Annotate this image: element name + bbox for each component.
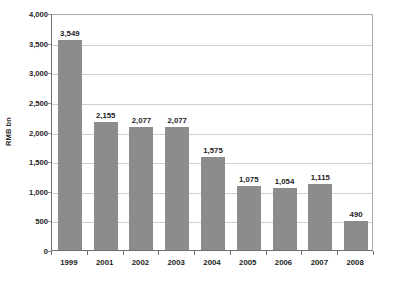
y-axis-tick-mark xyxy=(46,14,51,15)
x-axis-tick-mark xyxy=(158,251,159,255)
y-axis-tick-label: 1,500 xyxy=(14,158,48,167)
bar-value-label: 2,077 xyxy=(132,116,152,125)
bar-value-label: 1,075 xyxy=(239,175,259,184)
bar-group: 1,575 xyxy=(195,15,231,250)
x-axis-tick-label: 2005 xyxy=(228,258,268,267)
x-axis-tick-label: 2008 xyxy=(335,258,375,267)
bar[interactable] xyxy=(201,157,225,250)
bar-group: 1,115 xyxy=(302,15,338,250)
plot-area: 3,5492,1552,0772,0771,5751,0751,0541,115… xyxy=(51,14,373,251)
x-axis-tick-label: 2006 xyxy=(264,258,304,267)
bar-value-label: 1,575 xyxy=(203,146,223,155)
x-axis-tick-mark xyxy=(230,251,231,255)
y-axis-tick-labels: 05001,0001,5002,0002,5003,0003,5004,000 xyxy=(14,0,48,288)
bar-value-label: 1,054 xyxy=(275,177,295,186)
bar-chart-figure: RMB bn 05001,0001,5002,0002,5003,0003,50… xyxy=(0,0,415,288)
y-axis-tick-mark xyxy=(46,133,51,134)
y-axis-tick-mark xyxy=(46,192,51,193)
y-axis-tick-label: 3,500 xyxy=(14,39,48,48)
bar-value-label: 2,155 xyxy=(96,111,116,120)
x-axis-tick-mark xyxy=(301,251,302,255)
x-axis-tick-mark xyxy=(266,251,267,255)
x-axis-tick-mark xyxy=(194,251,195,255)
x-axis-tick-mark xyxy=(123,251,124,255)
x-axis-tick-label: 2002 xyxy=(120,258,160,267)
y-axis-tick-label: 0 xyxy=(14,247,48,256)
bar-group: 1,075 xyxy=(231,15,267,250)
bar[interactable] xyxy=(344,221,368,250)
x-axis-tick-label: 2001 xyxy=(85,258,125,267)
y-axis-tick-label: 3,000 xyxy=(14,69,48,78)
bar[interactable] xyxy=(129,127,153,250)
bar-group: 1,054 xyxy=(267,15,303,250)
x-axis-tick-mark xyxy=(337,251,338,255)
y-axis-tick-label: 1,000 xyxy=(14,187,48,196)
bar-value-label: 3,549 xyxy=(60,29,80,38)
bar-group: 490 xyxy=(338,15,374,250)
bar[interactable] xyxy=(94,122,118,250)
bar-group: 2,155 xyxy=(88,15,124,250)
bar[interactable] xyxy=(58,40,82,250)
x-axis-tick-label: 1999 xyxy=(49,258,89,267)
x-axis-tick-mark xyxy=(51,251,52,255)
y-axis-tick-label: 4,000 xyxy=(14,10,48,19)
x-axis-tick-label: 2007 xyxy=(299,258,339,267)
bars-layer: 3,5492,1552,0772,0771,5751,0751,0541,115… xyxy=(52,15,372,250)
y-axis-tick-mark xyxy=(46,221,51,222)
y-axis-tick-label: 500 xyxy=(14,217,48,226)
bar[interactable] xyxy=(273,188,297,250)
bar-group: 2,077 xyxy=(159,15,195,250)
x-axis-tick-mark xyxy=(373,251,374,255)
y-axis-tick-label: 2,500 xyxy=(14,98,48,107)
bar-group: 2,077 xyxy=(124,15,160,250)
bar-value-label: 1,115 xyxy=(311,173,330,182)
y-axis-tick-label: 2,000 xyxy=(14,128,48,137)
x-axis-tick-label: 2004 xyxy=(192,258,232,267)
y-axis-tick-mark xyxy=(46,251,51,252)
y-axis-tick-mark xyxy=(46,44,51,45)
bar-value-label: 490 xyxy=(350,210,363,219)
bar-group: 3,549 xyxy=(52,15,88,250)
bar[interactable] xyxy=(165,127,189,250)
x-axis-tick-label: 2003 xyxy=(156,258,196,267)
bar-value-label: 2,077 xyxy=(167,116,187,125)
bar[interactable] xyxy=(237,186,261,250)
y-axis-title-text: RMB bn xyxy=(4,100,13,164)
bar[interactable] xyxy=(308,184,332,250)
y-axis-tick-mark xyxy=(46,73,51,74)
y-axis-tick-mark xyxy=(46,162,51,163)
x-axis-tick-labels: 199920012002200320042005200620072008 xyxy=(51,251,373,281)
x-axis-tick-mark xyxy=(87,251,88,255)
y-axis-tick-mark xyxy=(46,103,51,104)
